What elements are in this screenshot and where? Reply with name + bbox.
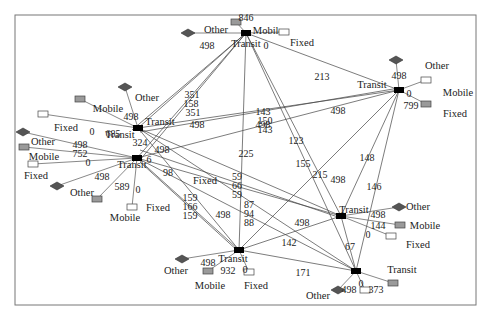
- edge-weight-label: 0: [366, 229, 371, 240]
- white-rect-node-icon: [386, 233, 396, 239]
- leaf-node-label: Mobile: [410, 220, 441, 231]
- gray-rect-node-icon: [203, 268, 213, 274]
- edge-weight-label: 498: [331, 105, 346, 116]
- edge-weight-label: 0: [264, 40, 269, 51]
- diamond-node-icon: [392, 203, 406, 211]
- edge-weight-label: 146: [367, 181, 382, 192]
- leaf-node-label: Fixed: [406, 239, 431, 250]
- diamond-node-icon: [181, 29, 195, 37]
- edge-weight-label: 498: [392, 70, 407, 81]
- white-rect-node-icon: [28, 161, 38, 167]
- gray-rect-node-icon: [75, 96, 85, 102]
- edge-weight-label: 373: [369, 284, 384, 295]
- leaf-node-label: Mobile: [195, 280, 226, 291]
- edge-weight-label: 98: [163, 167, 173, 178]
- edge-weight-label: 498: [95, 171, 110, 182]
- backbone-link: [138, 128, 239, 250]
- gray-rect-node-icon: [388, 280, 398, 286]
- edge-weight-label: 846: [239, 12, 254, 23]
- edge-weight-label: 0: [136, 184, 141, 195]
- edge-weight-label: 88: [244, 217, 254, 228]
- transit-node-icon: [394, 87, 404, 93]
- edge-weight-label: 0: [86, 157, 91, 168]
- edge-weight-label: 498: [200, 40, 215, 51]
- transit-node-label: Transit: [357, 79, 386, 90]
- edge-weight-label: 498: [216, 209, 231, 220]
- edge-weight-label: 213: [315, 71, 330, 82]
- edge-weight-label: 59: [232, 189, 242, 200]
- white-rect-node-icon: [421, 77, 431, 83]
- leaf-node-label: Mobile: [93, 103, 124, 114]
- diamond-node-icon: [175, 255, 189, 263]
- white-rect-node-icon: [127, 204, 137, 210]
- edge-weight-label: 0: [90, 126, 95, 137]
- leaf-node-label: Fixed: [24, 170, 49, 181]
- leaf-node-label: Other: [204, 24, 228, 35]
- floating-label: Fixed: [193, 175, 218, 186]
- edge-weight-label: 148: [360, 152, 375, 163]
- transit-node-icon: [351, 268, 361, 274]
- leaf-node-label: Fixed: [290, 37, 315, 48]
- edge-weight-label: 932: [221, 265, 236, 276]
- edge-weight-label: 498: [190, 119, 205, 130]
- edge-weight-label: 143: [258, 124, 273, 135]
- transit-node-icon: [241, 30, 251, 36]
- leaf-node-label: Other: [70, 187, 94, 198]
- edge-weight-label: 215: [313, 169, 328, 180]
- leaf-node-label: Fixed: [443, 108, 468, 119]
- edge-weight-label: 171: [296, 267, 311, 278]
- leaf-node-label: Fixed: [54, 122, 79, 133]
- leaf-node-label: Other: [135, 92, 159, 103]
- transit-node-label: Transit: [339, 204, 368, 215]
- edge-weight-label: 799: [404, 100, 419, 111]
- edge-weight-label: 6: [147, 154, 152, 165]
- leaf-node-label: Fixed: [244, 280, 269, 291]
- edge-weight-label: 498: [201, 257, 216, 268]
- gray-rect-node-icon: [395, 222, 405, 228]
- edge-weight-label: 324: [133, 137, 148, 148]
- edge-weight-label: 498: [371, 209, 386, 220]
- leaf-node-label: Mobile: [443, 87, 474, 98]
- diamond-node-icon: [16, 128, 30, 136]
- leaf-node-label: Mobile: [29, 151, 60, 162]
- diamond-node-icon: [389, 56, 403, 64]
- edge-weight-label: 351: [186, 107, 201, 118]
- leaf-node-label: Other: [31, 136, 55, 147]
- edge-weight-label: 159: [183, 210, 198, 221]
- transit-node-label: Transit: [231, 38, 260, 49]
- edge-weight-label: 498: [124, 111, 139, 122]
- diamond-node-icon: [118, 83, 132, 91]
- gray-rect-node-icon: [19, 144, 29, 150]
- edge-weight-label: 498: [155, 144, 170, 155]
- transit-node-label: Transit: [117, 159, 146, 170]
- white-rect-node-icon: [38, 111, 48, 117]
- network-diagram: OtherMobileFixedOtherMobileFixedOtherMob…: [0, 0, 488, 320]
- leaf-node-label: Mobile: [110, 212, 141, 223]
- edge-weight-label: 498: [342, 284, 357, 295]
- edge-weight-label: 589: [115, 181, 130, 192]
- edge-weight-label: 155: [296, 158, 311, 169]
- leaf-node-label: Other: [164, 265, 188, 276]
- gray-rect-node-icon: [421, 101, 431, 107]
- edge-weight-label: 685: [106, 128, 121, 139]
- edge-weight-label: 498: [331, 174, 346, 185]
- edge-weight-label: 67: [345, 241, 355, 252]
- edge-weight-label: 0: [243, 264, 248, 275]
- leaf-node-label: Other: [406, 201, 430, 212]
- edge-weight-label: 225: [239, 148, 254, 159]
- transit-node-label: Transit: [145, 116, 174, 127]
- transit-node-label: Transit: [387, 264, 416, 275]
- edge-weight-label: 142: [282, 237, 297, 248]
- transit-node-label: Transit: [218, 253, 247, 264]
- diamond-node-icon: [50, 182, 64, 190]
- edge-weight-label: 0: [359, 278, 364, 289]
- edge-weight-label: 0: [407, 88, 412, 99]
- leaf-node-label: Other: [306, 290, 330, 301]
- white-rect-node-icon: [279, 29, 289, 35]
- leaf-node-label: Other: [425, 60, 449, 71]
- edge-weight-label: 498: [295, 217, 310, 228]
- floating-label: Fixed: [146, 202, 171, 213]
- edge-weight-label: 123: [289, 135, 304, 146]
- edge-weight-label: 144: [371, 220, 386, 231]
